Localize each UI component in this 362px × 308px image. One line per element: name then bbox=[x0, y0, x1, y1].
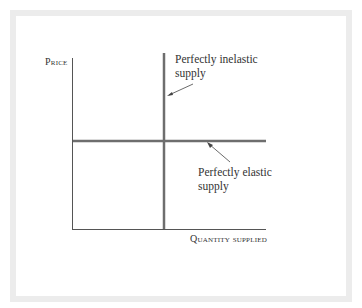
inelastic-label-line1: Perfectly inelastic bbox=[175, 52, 258, 66]
inelastic-annotation-arrow bbox=[169, 84, 193, 95]
chart-plot bbox=[0, 0, 362, 308]
elastic-label-line2: supply bbox=[198, 179, 272, 193]
elastic-annotation-arrow bbox=[209, 144, 230, 162]
x-axis-label: Quantity supplied bbox=[190, 232, 266, 246]
inelastic-label: Perfectly inelastic supply bbox=[175, 52, 258, 80]
elastic-label: Perfectly elastic supply bbox=[198, 165, 272, 193]
elastic-label-line1: Perfectly elastic bbox=[198, 165, 272, 179]
inelastic-arrowhead-icon bbox=[167, 92, 173, 96]
inelastic-label-line2: supply bbox=[175, 66, 258, 80]
y-axis-label: Price bbox=[45, 55, 68, 69]
